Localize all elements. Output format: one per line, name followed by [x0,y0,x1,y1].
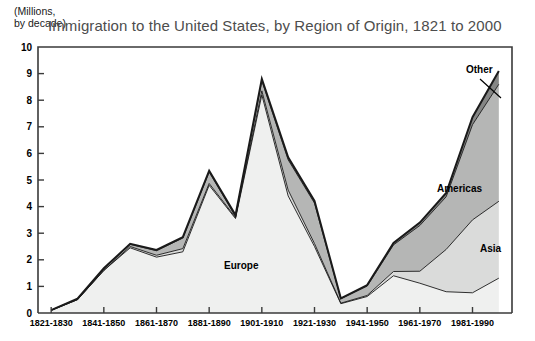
x-tick-label: 1921-1930 [293,318,336,328]
y-tick-label: 1 [26,281,32,292]
plot-area: 0123456789101821-18301841-18501861-18701… [0,0,535,341]
y-tick-label: 5 [26,175,32,186]
y-tick-label: 7 [26,121,32,132]
y-tick-label: 10 [21,42,33,53]
y-tick-label: 0 [26,308,32,319]
y-tick-label: 8 [26,95,32,106]
y-tick-label: 2 [26,254,32,265]
y-tick-label: 4 [26,201,32,212]
x-tick-label: 1841-1850 [82,318,125,328]
x-tick-label: 1961-1970 [398,318,441,328]
series-label-americas: Americas [437,183,482,194]
series-label-asia: Asia [480,243,502,254]
x-tick-label: 1981-1990 [451,318,494,328]
x-tick-label: 1881-1890 [188,318,231,328]
chart-figure: (Millions, by decade) Immigration to the… [0,0,535,341]
x-tick-label: 1941-1950 [346,318,389,328]
stacked-area-chart: 0123456789101821-18301841-18501861-18701… [0,0,535,341]
x-tick-label: 1861-1870 [135,318,178,328]
x-tick-label: 1901-1910 [240,318,283,328]
y-tick-label: 9 [26,68,32,79]
y-tick-label: 6 [26,148,32,159]
y-tick-label: 3 [26,228,32,239]
series-label-europe: Europe [224,260,259,271]
series-label-other: Other [466,64,493,75]
x-tick-label: 1821-1830 [30,318,73,328]
